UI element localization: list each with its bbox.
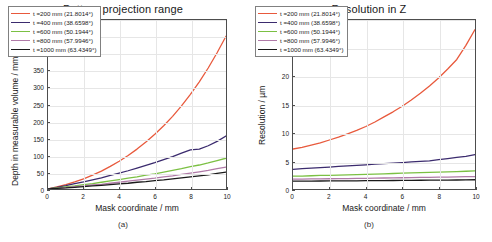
grid-line-horizontal	[48, 71, 226, 72]
x-tick-label: 0	[45, 193, 49, 200]
legend-label-600: t =600 mm (50.1944°)	[280, 27, 340, 36]
grid-line-vertical	[120, 20, 121, 189]
x-tick-label: 10	[223, 193, 230, 200]
y-tick-label: 0	[25, 187, 44, 194]
legend-label-200: t =200 mm (21.8014°)	[33, 9, 93, 18]
legend-swatch-400	[258, 22, 277, 23]
figure: Pattern projection range Depth in measur…	[0, 0, 492, 242]
series-line-3	[293, 171, 475, 176]
x-tick-label: 2	[81, 193, 85, 200]
legend-swatch-200	[258, 13, 277, 14]
grid-line-horizontal	[48, 174, 226, 175]
grid-line-horizontal	[293, 77, 475, 78]
legend-item: t =400 mm (38.6598°)	[11, 18, 97, 27]
y-tick-label: 200	[25, 118, 44, 125]
legend-label-600: t =600 mm (50.1944°)	[33, 27, 93, 36]
legend-label-1000: t =1000 mm (63.4349°)	[33, 45, 97, 54]
legend-item: t =600 mm (50.1944°)	[258, 27, 344, 36]
grid-line-horizontal	[48, 123, 226, 124]
x-tick-mark	[439, 187, 440, 190]
grid-line-horizontal	[48, 140, 226, 141]
x-tick-label: 4	[117, 193, 121, 200]
legend-label-800: t =800 mm (57.9946°)	[33, 36, 93, 45]
legend-swatch-400	[11, 22, 30, 23]
panel-a: Pattern projection range Depth in measur…	[0, 0, 246, 242]
panel-a-ylabel: Depth in measurable volume / mm	[10, 57, 20, 186]
panel-a-legend: t =200 mm (21.8014°) t =400 mm (38.6598°…	[8, 6, 101, 57]
grid-line-vertical	[403, 20, 404, 189]
y-tick-label: 0	[270, 187, 289, 194]
grid-line-vertical	[192, 20, 193, 189]
series-line-4	[293, 177, 475, 180]
x-tick-label: 2	[327, 193, 331, 200]
y-tick-label: 100	[25, 152, 44, 159]
panel-b-sublabel: (b)	[246, 220, 492, 229]
y-tick-label: 150	[25, 135, 44, 142]
series-line-2	[48, 136, 226, 189]
legend-item: t =800 mm (57.9946°)	[258, 36, 344, 45]
grid-line-horizontal	[48, 106, 226, 107]
y-tick-label: 350	[25, 67, 44, 74]
x-tick-label: 8	[189, 193, 193, 200]
panel-a-sublabel: (a)	[0, 220, 246, 229]
panel-b-ylabel: Resolution / µm	[257, 86, 267, 145]
y-tick-mark	[292, 133, 295, 134]
legend-label-400: t =400 mm (38.6598°)	[33, 18, 93, 27]
y-tick-mark	[292, 76, 295, 77]
x-tick-mark	[83, 187, 84, 190]
y-tick-mark	[292, 162, 295, 163]
grid-line-horizontal	[48, 88, 226, 89]
x-tick-mark	[476, 187, 477, 190]
y-tick-mark	[47, 105, 50, 106]
x-tick-mark	[329, 187, 330, 190]
legend-swatch-1000	[258, 49, 277, 50]
x-tick-label: 8	[437, 193, 441, 200]
panel-b-legend: t =200 mm (21.8014°) t =400 mm (38.6598°…	[255, 6, 348, 57]
y-tick-mark	[47, 139, 50, 140]
legend-swatch-800	[11, 40, 30, 41]
x-tick-mark	[366, 187, 367, 190]
y-tick-mark	[292, 105, 295, 106]
y-tick-mark	[47, 190, 50, 191]
legend-item: t =1000 mm (63.4349°)	[258, 45, 344, 54]
legend-item: t =200 mm (21.8014°)	[258, 9, 344, 18]
x-tick-mark	[155, 187, 156, 190]
grid-line-vertical	[367, 20, 368, 189]
y-tick-label: 50	[25, 169, 44, 176]
legend-swatch-800	[258, 40, 277, 41]
x-tick-mark	[227, 187, 228, 190]
y-tick-mark	[47, 173, 50, 174]
series-line-1	[48, 36, 226, 189]
y-tick-mark	[47, 156, 50, 157]
x-tick-label: 6	[153, 193, 157, 200]
y-tick-mark	[47, 122, 50, 123]
grid-line-horizontal	[48, 157, 226, 158]
y-tick-label: 5	[270, 158, 289, 165]
x-tick-label: 0	[290, 193, 294, 200]
panel-b: Resolution in Z Resolution / µm 05101520…	[246, 0, 492, 242]
y-tick-label: 300	[25, 84, 44, 91]
legend-item: t =600 mm (50.1944°)	[11, 27, 97, 36]
legend-label-800: t =800 mm (57.9946°)	[280, 36, 340, 45]
y-tick-mark	[47, 70, 50, 71]
panel-a-xlabel: Mask coordinate / mm	[47, 203, 227, 213]
grid-line-horizontal	[293, 134, 475, 135]
y-tick-label: 250	[25, 101, 44, 108]
legend-label-1000: t =1000 mm (63.4349°)	[280, 45, 344, 54]
y-tick-label: 10	[270, 130, 289, 137]
legend-item: t =400 mm (38.6598°)	[258, 18, 344, 27]
x-tick-mark	[191, 187, 192, 190]
legend-item: t =1000 mm (63.4349°)	[11, 45, 97, 54]
x-tick-mark	[402, 187, 403, 190]
legend-label-400: t =400 mm (38.6598°)	[280, 18, 340, 27]
panel-b-xlabel: Mask coordinate / mm	[292, 203, 476, 213]
series-line-5	[293, 180, 475, 181]
y-tick-label: 20	[270, 73, 289, 80]
grid-line-vertical	[156, 20, 157, 189]
x-tick-mark	[292, 187, 293, 190]
legend-swatch-600	[258, 31, 277, 32]
legend-item: t =200 mm (21.8014°)	[11, 9, 97, 18]
x-tick-label: 6	[401, 193, 405, 200]
y-tick-mark	[292, 190, 295, 191]
legend-label-200: t =200 mm (21.8014°)	[280, 9, 340, 18]
